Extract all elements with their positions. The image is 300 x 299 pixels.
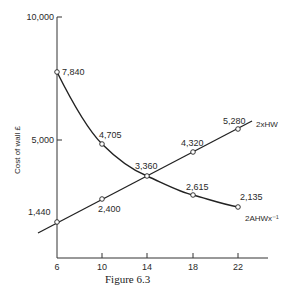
y-axis-label: Cost of wall £ [13, 125, 22, 174]
x-tick-label: 6 [54, 262, 59, 272]
point-label: 3,360 [135, 161, 158, 171]
point-label: 4,320 [181, 138, 204, 148]
point-label: 1,440 [28, 207, 51, 217]
series-label: 2AHWx⁻¹ [245, 214, 279, 223]
x-tick-label: 18 [188, 262, 198, 272]
point-label: 7,840 [62, 67, 85, 77]
point-label: 5,280 [223, 116, 246, 126]
point-label: 2,615 [186, 182, 209, 192]
x-tick-label: 22 [233, 262, 243, 272]
figure-caption: Figure 6.3 [105, 273, 150, 285]
chart: 10,000 5,000 Cost of wall £ 6 10 14 18 2… [0, 0, 300, 299]
point-label: 2,400 [98, 204, 121, 214]
point-label: 4,705 [99, 130, 122, 140]
x-tick-label: 14 [142, 262, 152, 272]
x-tick-label: 10 [97, 262, 107, 272]
series-line-2AHWx-1 [57, 72, 238, 207]
y-tick-label: 10,000 [26, 12, 54, 22]
point-label: 2,135 [240, 192, 263, 202]
series-label: 2xHW [256, 120, 278, 129]
y-tick-label: 5,000 [31, 135, 54, 145]
